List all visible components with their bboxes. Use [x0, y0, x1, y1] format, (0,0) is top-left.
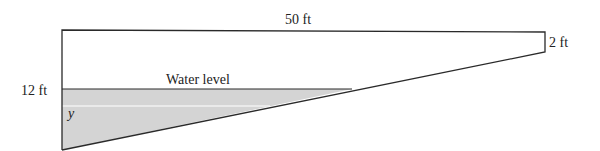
left-depth-label: 12 ft	[21, 83, 47, 98]
trough-diagram: 50 ft 2 ft 12 ft Water level y	[0, 0, 600, 151]
depth-variable-label: y	[66, 106, 75, 121]
right-depth-label: 2 ft	[549, 35, 568, 50]
top-length-label: 50 ft	[285, 12, 311, 27]
water-level-label: Water level	[166, 72, 230, 87]
